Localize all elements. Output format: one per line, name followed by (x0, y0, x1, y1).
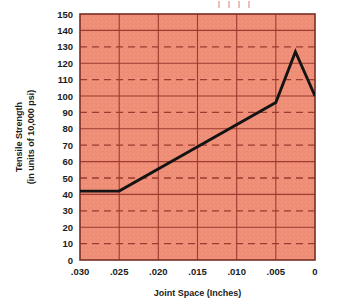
y-tick-70: 70 (62, 140, 73, 151)
x-tick-015: .015 (188, 266, 207, 277)
y-tick-60: 60 (62, 156, 73, 167)
x-tick-010: .010 (227, 266, 246, 277)
y-tick-80: 80 (62, 123, 73, 134)
y-tick-30: 30 (62, 205, 73, 216)
y-tick-0: 0 (68, 255, 73, 266)
x-tick-030: .030 (71, 266, 90, 277)
y-tick-20: 20 (62, 222, 73, 233)
y-tick-130: 130 (57, 41, 73, 52)
y-axis-title-line2: (in units of 10,000 psi) (26, 90, 36, 185)
y-tick-100: 100 (57, 91, 73, 102)
x-tick-020: .020 (149, 266, 168, 277)
x-tick-005: .005 (267, 266, 286, 277)
y-tick-50: 50 (62, 173, 73, 184)
tensile-strength-chart: 150 140 130 120 110 100 90 80 70 60 50 4… (0, 0, 350, 307)
y-tick-120: 120 (57, 58, 73, 69)
y-tick-10: 10 (62, 238, 73, 249)
y-axis-title-line1: Tensile Strength (14, 102, 24, 172)
x-axis-title: Joint Space (Inches) (154, 288, 242, 298)
y-tick-90: 90 (62, 107, 73, 118)
x-tick-025: .025 (110, 266, 129, 277)
y-tick-140: 140 (57, 25, 73, 36)
y-tick-150: 150 (57, 9, 73, 20)
y-tick-40: 40 (62, 189, 73, 200)
x-tick-0: 0 (312, 266, 317, 277)
y-tick-110: 110 (58, 74, 73, 85)
